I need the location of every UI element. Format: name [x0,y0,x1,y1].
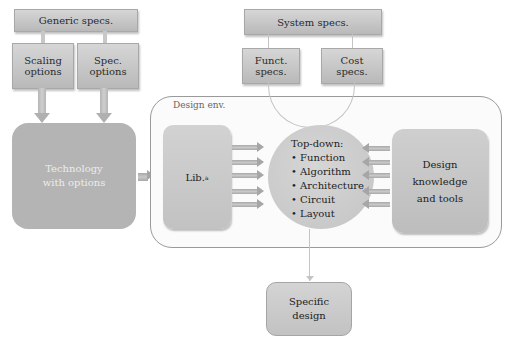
system-specs-label: System specs. [277,17,349,28]
connector-line [268,34,269,48]
specific-design-box: Specific design [266,282,352,336]
cost-specs-line2: specs. [336,66,367,77]
design-env-label: Design env. [173,100,225,110]
right-arrow-icon [232,189,258,194]
spec-options-box: Spec. options [77,43,139,89]
design-knowledge-line2: knowledge [413,173,468,190]
down-arrow-stem [38,88,46,115]
top-down-circle: Top-down: Function Algorithm Architectur… [268,125,374,229]
right-arrow-icon [232,145,258,150]
specific-design-line1: Specific [289,295,329,309]
scaling-options-box: Scaling options [12,43,74,89]
technology-line2: with options [43,176,106,190]
down-arrow-icon [306,276,314,281]
left-arrow-icon [368,173,390,178]
library-box: Lib.a [163,125,231,229]
technology-line1: Technology [43,162,106,176]
specific-design-line2: design [289,309,329,323]
cost-specs-line1: Cost [341,55,364,66]
down-arrow-icon [96,113,112,123]
output-connector-line [309,229,310,281]
cost-specs-box: Cost specs. [321,48,383,84]
connector-line [352,34,353,48]
design-knowledge-line1: Design [413,156,468,173]
scaling-options-line2: options [24,66,61,77]
left-arrow-icon [368,146,390,151]
right-arrow-icon [232,173,258,178]
library-label: Lib. [186,172,205,183]
left-arrow-icon [368,189,390,194]
left-arrow-icon [368,202,390,207]
spec-options-line1: Spec. [94,55,122,66]
design-knowledge-box: Design knowledge and tools [392,129,488,233]
left-arrow-icon [368,160,390,165]
right-arrow-icon [232,202,258,207]
system-specs-box: System specs. [244,9,382,35]
top-down-item: Layout [291,207,374,221]
right-arrow-icon [232,160,258,165]
funct-specs-line1: Funct. [255,55,288,66]
funct-specs-line2: specs. [255,66,286,77]
right-arrow-icon [138,173,148,181]
library-footnote-marker: a [205,174,209,181]
funct-specs-box: Funct. specs. [242,48,300,84]
spec-options-line2: options [89,66,126,77]
connector-line [41,31,45,43]
connector-line [103,31,107,43]
technology-box: Technology with options [12,123,136,229]
design-knowledge-line3: and tools [413,190,468,207]
generic-specs-label: Generic specs. [39,15,113,26]
scaling-options-line1: Scaling [24,55,62,66]
down-arrow-stem [100,88,108,115]
generic-specs-box: Generic specs. [14,9,138,32]
down-arrow-icon [34,113,50,123]
